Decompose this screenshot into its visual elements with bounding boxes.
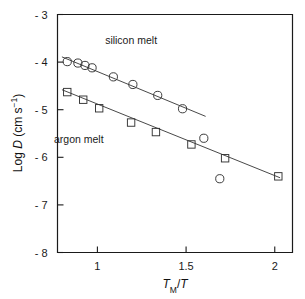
data-point-silicon [200, 134, 208, 142]
y-axis-tick-labels: - 3- 4- 5- 6- 7- 8 [35, 9, 48, 259]
scatter-plot: - 3- 4- 5- 6- 7- 8 11.52 silicon meltarg… [0, 0, 305, 299]
data-point-silicon [178, 105, 186, 113]
fit-lines-group [62, 57, 280, 178]
data-point-silicon [216, 175, 224, 183]
svg-text:TM/T: TM/T [162, 277, 189, 295]
y-tick-label: - 8 [35, 247, 48, 259]
y-tick-label: - 3 [35, 9, 48, 21]
fit-line-silicon [62, 57, 206, 117]
x-axis-tick-labels: 11.52 [94, 260, 277, 272]
data-point-silicon [129, 80, 137, 88]
figure-container: - 3- 4- 5- 6- 7- 8 11.52 silicon meltarg… [0, 0, 305, 299]
series-label-silicon: silicon melt [105, 34, 157, 46]
data-point-argon [127, 119, 134, 126]
y-tick-label: - 6 [35, 151, 48, 163]
x-tick-label: 1.5 [178, 260, 193, 272]
y-tick-label: - 5 [35, 104, 48, 116]
x-axis-title: TM/T [162, 277, 189, 295]
data-markers-group [63, 58, 282, 183]
y-tick-label: - 7 [35, 199, 48, 211]
series-label-argon: argon melt [54, 133, 104, 145]
x-tick-label: 1 [94, 260, 100, 272]
y-tick-label: - 4 [35, 56, 48, 68]
svg-text:Log D (cm s−1): Log D (cm s−1) [9, 94, 25, 172]
x-tick-label: 2 [272, 260, 278, 272]
data-point-argon [152, 128, 159, 135]
y-axis-title: Log D (cm s−1) [9, 94, 25, 172]
x-axis-ticks [97, 247, 274, 253]
